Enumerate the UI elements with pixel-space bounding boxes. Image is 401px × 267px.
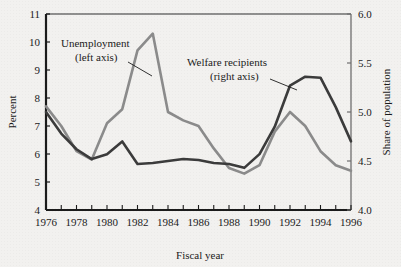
- y-tick-right-6.0: 6.0: [358, 8, 372, 20]
- x-tick-1992: 1992: [279, 216, 301, 228]
- x-tick-1994: 1994: [310, 216, 333, 228]
- y-tick-left-4: 4: [35, 204, 41, 216]
- unemployment-annotation-line1: Unemployment: [61, 37, 129, 49]
- x-tick-1988: 1988: [218, 216, 241, 228]
- y-tick-left-6: 6: [35, 148, 41, 160]
- y-tick-left-9: 9: [35, 64, 41, 76]
- y-tick-left-8: 8: [35, 92, 41, 104]
- y-axis-left-title: Percent: [6, 96, 18, 129]
- y-tick-left-5: 5: [35, 176, 41, 188]
- x-tick-1976: 1976: [35, 216, 58, 228]
- y-tick-left-10: 10: [29, 36, 41, 48]
- y-tick-left-7: 7: [35, 120, 41, 132]
- y-tick-right-4.5: 4.5: [358, 155, 372, 167]
- x-tick-1984: 1984: [157, 216, 180, 228]
- x-tick-1982: 1982: [127, 216, 149, 228]
- y-tick-right-5.0: 5.0: [358, 106, 372, 118]
- welfare-annotation-line1: Welfare recipients: [187, 56, 267, 68]
- y-axis-right-title: Share of population: [380, 68, 392, 155]
- x-tick-1990: 1990: [249, 216, 272, 228]
- x-tick-1980: 1980: [96, 216, 119, 228]
- x-axis-title: Fiscal year: [176, 249, 224, 261]
- y-tick-right-4.0: 4.0: [358, 204, 372, 216]
- chart-svg: 4567891011 4.04.55.05.56.0 1976197819801…: [0, 0, 401, 267]
- unemployment-annotation-line2: (left axis): [75, 51, 118, 64]
- y-tick-right-5.5: 5.5: [358, 57, 372, 69]
- chart-figure: 4567891011 4.04.55.05.56.0 1976197819801…: [0, 0, 401, 267]
- y-tick-left-11: 11: [29, 8, 40, 20]
- x-tick-1986: 1986: [188, 216, 211, 228]
- welfare-annotation-line2: (right axis): [210, 70, 259, 83]
- x-tick-1996: 1996: [340, 216, 363, 228]
- x-tick-1978: 1978: [66, 216, 89, 228]
